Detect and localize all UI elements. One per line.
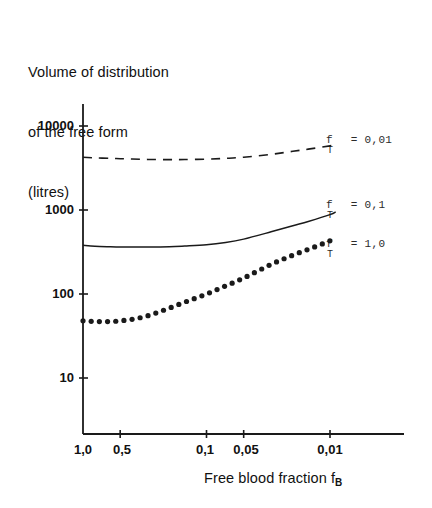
data-dot (129, 317, 134, 322)
data-dot (153, 310, 158, 315)
data-dot (207, 290, 212, 295)
data-dot (113, 319, 118, 324)
data-dot (184, 299, 189, 304)
data-dot (274, 259, 279, 264)
data-dot (199, 293, 204, 298)
data-dot (320, 241, 325, 246)
axis-ticks (79, 126, 330, 438)
data-dot (97, 319, 102, 324)
data-dot (237, 277, 242, 282)
data-dot (230, 281, 235, 286)
data-dot (312, 244, 317, 249)
data-dot (105, 319, 110, 324)
data-dot (252, 270, 257, 275)
data-dot (169, 305, 174, 310)
data-dot (121, 318, 126, 323)
data-dot (281, 256, 286, 261)
data-dot (327, 238, 332, 243)
data-dot (304, 247, 309, 252)
series-curve-1-solid (83, 212, 336, 247)
data-dot (259, 266, 264, 271)
data-dot (214, 287, 219, 292)
axis-lines (83, 104, 404, 434)
data-dot (161, 308, 166, 313)
series-curve-2-dotted (80, 238, 332, 324)
data-dot (138, 315, 143, 320)
data-dot (297, 250, 302, 255)
data-dot (222, 284, 227, 289)
data-dot (266, 263, 271, 268)
data-dot (244, 274, 249, 279)
data-curves (80, 145, 335, 325)
chart-figure: Volume of distribution of the free form … (0, 0, 432, 508)
data-dot (192, 296, 197, 301)
data-dot (80, 318, 85, 323)
series-curve-0-dashed (83, 145, 336, 160)
data-dot (89, 319, 94, 324)
data-dot (176, 302, 181, 307)
plot-area (0, 0, 432, 508)
data-dot (289, 253, 294, 258)
data-dot (145, 313, 150, 318)
